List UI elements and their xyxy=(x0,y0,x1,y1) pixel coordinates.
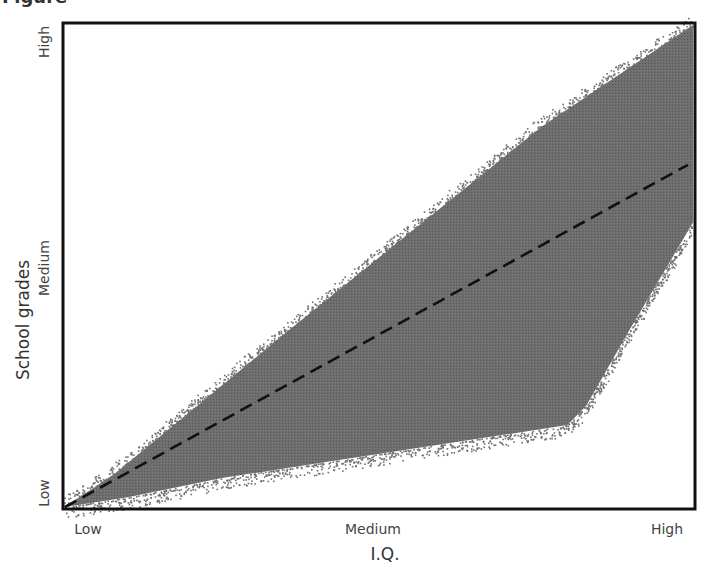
x-axis-label: I.Q. xyxy=(370,544,399,564)
scatter-plot xyxy=(0,0,709,571)
x-tick-low: Low xyxy=(74,521,102,537)
y-axis-label: School grades xyxy=(13,260,33,380)
data-cloud xyxy=(65,25,693,507)
y-tick-low: Low xyxy=(36,479,52,507)
y-tick-medium: Medium xyxy=(36,240,52,296)
x-tick-high: High xyxy=(651,521,683,537)
x-tick-medium: Medium xyxy=(345,521,401,537)
y-tick-high: High xyxy=(36,26,52,58)
y-axis-label-wrap: School grades xyxy=(10,220,36,420)
